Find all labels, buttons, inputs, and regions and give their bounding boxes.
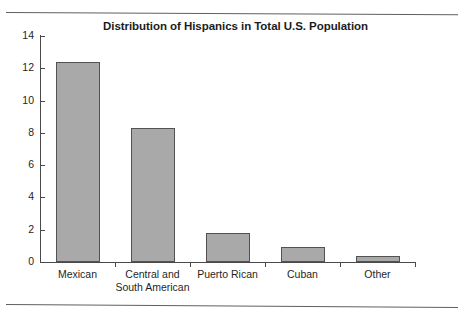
bar-mexican xyxy=(56,62,100,262)
y-tick-label-12: 12 xyxy=(4,61,34,73)
x-axis-line xyxy=(40,262,415,263)
y-tick-label-14: 14 xyxy=(4,29,34,41)
category-label-mexican: Mexican xyxy=(40,268,115,281)
bar-cuban xyxy=(281,247,325,262)
category-label-cuban: Cuban xyxy=(265,268,340,281)
category-label-central-and-south-american: Central andSouth American xyxy=(115,268,190,294)
y-tick-label-2: 2 xyxy=(4,223,34,235)
x-boundary-tick xyxy=(265,262,266,267)
category-label-puerto-rican: Puerto Rican xyxy=(190,268,265,281)
category-label-line: Puerto Rican xyxy=(190,268,265,281)
y-tick-label-8: 8 xyxy=(4,126,34,138)
bar-chart: Distribution of Hispanics in Total U.S. … xyxy=(0,0,471,321)
y-tick-label-10: 10 xyxy=(4,94,34,106)
x-boundary-tick xyxy=(415,262,416,267)
y-tick-label-6: 6 xyxy=(4,158,34,170)
category-label-line: South American xyxy=(115,281,190,294)
y-tick-0 xyxy=(40,262,45,263)
y-tick-label-4: 4 xyxy=(4,190,34,202)
scanned-page: Distribution of Hispanics in Total U.S. … xyxy=(0,0,471,321)
bar-central-and-south-american xyxy=(131,128,175,262)
y-tick-8 xyxy=(40,133,45,134)
y-tick-4 xyxy=(40,197,45,198)
category-label-line: Other xyxy=(340,268,415,281)
category-label-line: Mexican xyxy=(40,268,115,281)
category-label-line: Cuban xyxy=(265,268,340,281)
y-tick-10 xyxy=(40,101,45,102)
y-tick-12 xyxy=(40,68,45,69)
chart-title: Distribution of Hispanics in Total U.S. … xyxy=(0,20,471,32)
category-label-line: Central and xyxy=(115,268,190,281)
bar-other xyxy=(356,256,400,262)
y-tick-6 xyxy=(40,165,45,166)
bar-puerto-rican xyxy=(206,233,250,262)
x-boundary-tick xyxy=(340,262,341,267)
y-tick-label-0: 0 xyxy=(4,255,34,267)
category-label-other: Other xyxy=(340,268,415,281)
y-tick-2 xyxy=(40,230,45,231)
x-boundary-tick xyxy=(190,262,191,267)
x-boundary-tick xyxy=(115,262,116,267)
y-tick-14 xyxy=(40,36,45,37)
